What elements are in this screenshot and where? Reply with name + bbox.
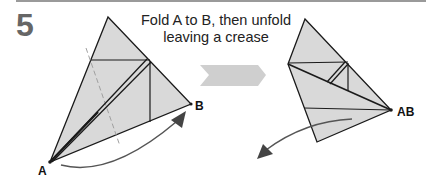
label-a: A [38,164,47,178]
point-b-dot [189,102,192,105]
folded-paper-shape [288,19,391,142]
point-ab-dot [389,108,393,112]
label-ab: AB [397,105,415,119]
before-fold-figure: A B [38,17,204,178]
fold-diagram: A B AB [0,0,433,178]
transition-arrow-icon [200,65,266,86]
label-b: B [195,99,204,113]
point-a-dot [48,160,52,164]
fold-arrowhead-icon [171,111,186,128]
after-fold-figure: AB [257,19,415,159]
